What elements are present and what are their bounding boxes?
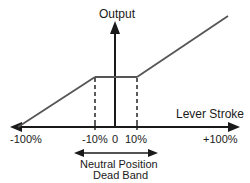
y-axis-arrowhead	[110, 21, 120, 34]
x-axis-left-arrowhead	[10, 122, 22, 132]
diagram-canvas	[0, 0, 250, 183]
deadband-annotation-line-2: Dead Band	[93, 170, 148, 181]
x-tick-label-plus-10: 10%	[125, 134, 147, 145]
x-axis-right-arrowhead	[228, 122, 240, 132]
response-left-ramp	[18, 77, 95, 127]
deadband-span-right-arrowhead	[148, 149, 158, 157]
x-tick-label-minus-100: -100%	[10, 134, 42, 145]
y-axis-label: Output	[99, 8, 135, 20]
response-right-ramp	[137, 16, 228, 77]
x-axis-label: Lever Stroke	[176, 108, 244, 120]
x-tick-label-minus-10: -10%	[82, 134, 108, 145]
deadband-span-left-arrowhead	[74, 149, 84, 157]
dead-band-diagram: Output Lever Stroke -100% -10% 0 10% +10…	[0, 0, 250, 183]
x-tick-label-plus-100: +100%	[203, 134, 238, 145]
x-tick-label-zero: 0	[112, 134, 118, 145]
